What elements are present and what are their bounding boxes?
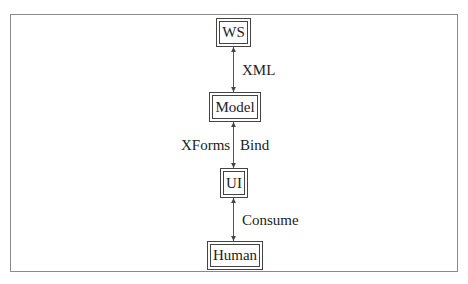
edge-label-bind: Bind [240,138,269,153]
node-model-label: Model [212,95,258,119]
node-ws: WS [216,18,251,47]
node-human: Human [207,241,263,270]
node-ui: UI [220,168,248,198]
edge-label-consume: Consume [242,213,299,228]
edge-label-xml: XML [242,63,275,78]
edge-label-xforms: XForms [181,138,230,153]
node-human-label: Human [210,244,260,267]
node-ui-label: UI [223,171,245,195]
node-ws-label: WS [219,21,248,44]
node-model: Model [209,92,261,122]
